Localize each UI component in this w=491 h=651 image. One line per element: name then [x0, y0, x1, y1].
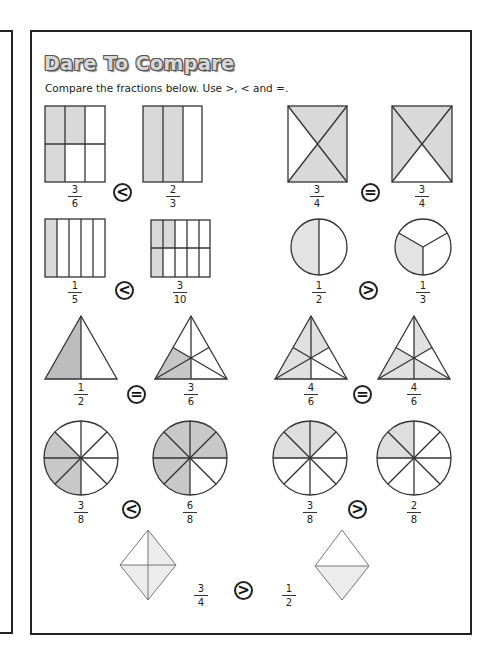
comparison-symbol-greater-than[interactable]: > — [348, 500, 367, 519]
diagram-circle-3-8 — [44, 421, 118, 495]
diagram-rect-diagonals-3-4-a — [288, 106, 347, 182]
fraction-label: 13 — [408, 280, 438, 305]
comparison-symbol-greater-than[interactable]: > — [359, 281, 378, 300]
comparison-symbol-equal[interactable]: = — [353, 385, 372, 404]
comparison-symbol-less-than[interactable]: < — [122, 500, 141, 519]
fraction-label: 12 — [274, 583, 304, 608]
diagram-rect-grid-3-6 — [45, 106, 105, 182]
comparison-symbol-greater-than[interactable]: > — [234, 581, 253, 600]
fraction-label: 38 — [295, 500, 325, 525]
fraction-label: 38 — [66, 500, 96, 525]
fraction-label: 23 — [158, 184, 188, 209]
diagram-circle-1-3 — [395, 219, 451, 275]
diagram-diamond-1-2 — [315, 530, 369, 600]
fraction-label: 36 — [60, 184, 90, 209]
diagram-rect-grid-3-10 — [151, 220, 210, 277]
diagram-circle-3-8-b — [273, 421, 347, 495]
fraction-label: 46 — [296, 382, 326, 407]
diagram-circle-2-8 — [377, 421, 451, 495]
comparison-symbol-equal[interactable]: = — [127, 385, 146, 404]
fraction-label: 12 — [304, 280, 334, 305]
diagram-triangle-3-6 — [155, 316, 227, 379]
diagram-triangle-1-2 — [45, 316, 117, 379]
fraction-label: 36 — [176, 382, 206, 407]
fraction-label: 34 — [302, 184, 332, 209]
diagram-rect-columns-2-3 — [143, 106, 202, 182]
fraction-label: 68 — [175, 500, 205, 525]
fraction-label: 15 — [60, 280, 90, 305]
fraction-label: 34 — [186, 583, 216, 608]
fraction-diagrams — [0, 0, 491, 651]
comparison-symbol-equal[interactable]: = — [361, 183, 380, 202]
fraction-label: 34 — [407, 184, 437, 209]
diagram-triangle-4-6-b — [378, 316, 450, 379]
fraction-label: 28 — [399, 500, 429, 525]
fraction-label: 46 — [399, 382, 429, 407]
diagram-rect-columns-1-5 — [45, 219, 105, 277]
fraction-label: 12 — [66, 382, 96, 407]
diagram-triangle-4-6-a — [275, 316, 347, 379]
comparison-symbol-less-than[interactable]: < — [115, 281, 134, 300]
diagram-rect-diagonals-3-4-b — [392, 106, 452, 182]
diagram-diamond-3-4 — [120, 530, 176, 600]
fraction-label: 310 — [165, 280, 195, 305]
diagram-circle-1-2 — [291, 219, 347, 275]
comparison-symbol-less-than[interactable]: < — [113, 183, 132, 202]
diagram-circle-6-8 — [153, 421, 227, 495]
